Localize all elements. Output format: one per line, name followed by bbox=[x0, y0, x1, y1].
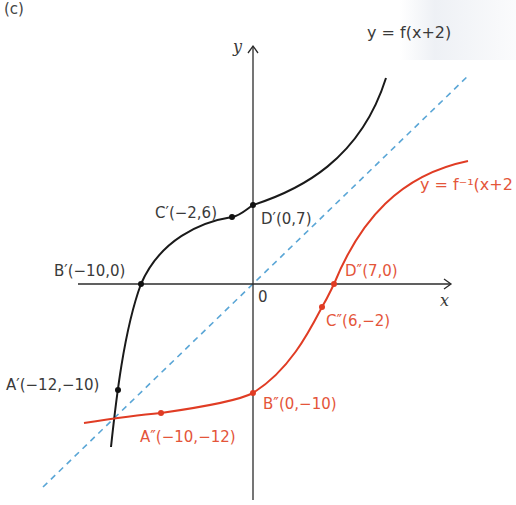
label-b-prime: B′(−10,0) bbox=[54, 262, 125, 280]
label-c-double-prime: C″(6,−2) bbox=[326, 312, 390, 330]
graph-figure: (c) y x 0 y = f(x+2) y = f⁻¹(x+2 A′(−12,… bbox=[0, 0, 516, 505]
point-c-prime bbox=[229, 214, 235, 220]
label-c-prime: C′(−2,6) bbox=[155, 204, 217, 222]
point-b-prime bbox=[138, 281, 144, 287]
curve-label-f-shifted: y = f(x+2) bbox=[367, 24, 451, 42]
label-a-double-prime: A″(−10,−12) bbox=[140, 428, 236, 446]
label-b-double-prime: B″(0,−10) bbox=[263, 395, 337, 413]
y-axis-label: y bbox=[233, 38, 242, 56]
label-d-double-prime: D″(7,0) bbox=[345, 262, 398, 280]
label-a-prime: A′(−12,−10) bbox=[6, 376, 99, 394]
x-axis-label: x bbox=[440, 292, 449, 310]
point-b-double-prime bbox=[250, 390, 256, 396]
point-c-double-prime bbox=[319, 304, 325, 310]
curve-label-f-inverse-shifted: y = f⁻¹(x+2 bbox=[420, 176, 513, 194]
mirror-line-y-equals-x bbox=[43, 74, 470, 487]
point-a-prime bbox=[115, 387, 121, 393]
panel-label: (c) bbox=[4, 0, 24, 18]
graph-canvas bbox=[0, 0, 516, 505]
point-d-prime bbox=[250, 202, 256, 208]
point-d-double-prime bbox=[331, 281, 337, 287]
origin-label: 0 bbox=[258, 288, 268, 306]
point-a-double-prime bbox=[158, 410, 164, 416]
label-d-prime: D′(0,7) bbox=[261, 210, 312, 228]
curve-f-inverse-shifted bbox=[84, 161, 468, 423]
